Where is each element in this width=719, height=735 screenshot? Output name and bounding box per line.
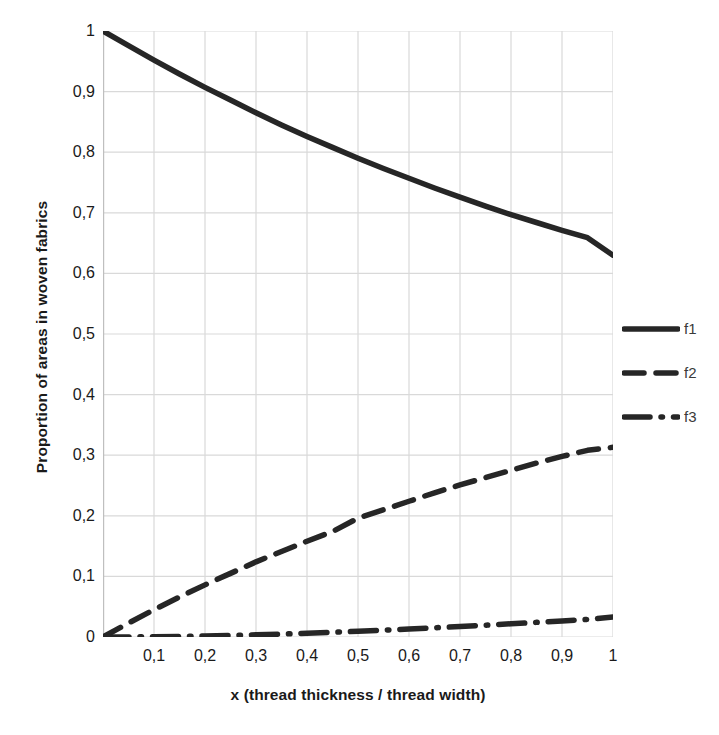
gridlines [103, 31, 613, 637]
x-tick-label: 0,6 [383, 648, 435, 664]
y-tick-label: 0,1 [51, 568, 95, 584]
x-tick-label: 0,3 [230, 648, 282, 664]
y-tick-label: 0,5 [51, 326, 95, 342]
x-axis-title: x (thread thickness / thread width) [103, 686, 613, 704]
x-tick-label: 0,8 [485, 648, 537, 664]
y-tick-label: 0,4 [51, 387, 95, 403]
y-tick-label: 0,9 [51, 84, 95, 100]
y-tick-label: 0,6 [51, 265, 95, 281]
y-tick-label: 0,2 [51, 508, 95, 524]
legend-line-sample-f3 [622, 406, 680, 428]
plot-area [103, 31, 613, 637]
y-tick-label: 0,3 [51, 447, 95, 463]
x-tick-label: 0,9 [536, 648, 588, 664]
legend-label: f2 [684, 364, 697, 382]
legend-item-f3[interactable]: f3 [622, 406, 717, 428]
y-tick-label: 0,7 [51, 205, 95, 221]
legend-line-sample-f1 [622, 318, 680, 340]
y-tick-label: 1 [51, 23, 95, 39]
y-tick-label: 0,8 [51, 144, 95, 160]
x-tick-label: 0,1 [128, 648, 180, 664]
chart-figure: Proportion of areas in woven fabrics 00,… [0, 0, 719, 735]
legend-label: f1 [684, 320, 697, 338]
legend-label: f3 [684, 408, 697, 426]
y-tick-label: 0 [51, 629, 95, 645]
y-axis-tick-labels: 00,10,20,30,40,50,60,70,80,91 [45, 0, 95, 735]
legend-line-sample-f2 [622, 362, 680, 384]
x-tick-label: 1 [587, 648, 639, 664]
x-tick-label: 0,2 [179, 648, 231, 664]
x-tick-label: 0,4 [281, 648, 333, 664]
plot-svg [103, 31, 613, 637]
x-tick-label: 0,5 [332, 648, 384, 664]
legend-item-f2[interactable]: f2 [622, 362, 717, 384]
chart-legend: f1f2f3 [622, 318, 717, 438]
legend-item-f1[interactable]: f1 [622, 318, 717, 340]
x-tick-label: 0,7 [434, 648, 486, 664]
